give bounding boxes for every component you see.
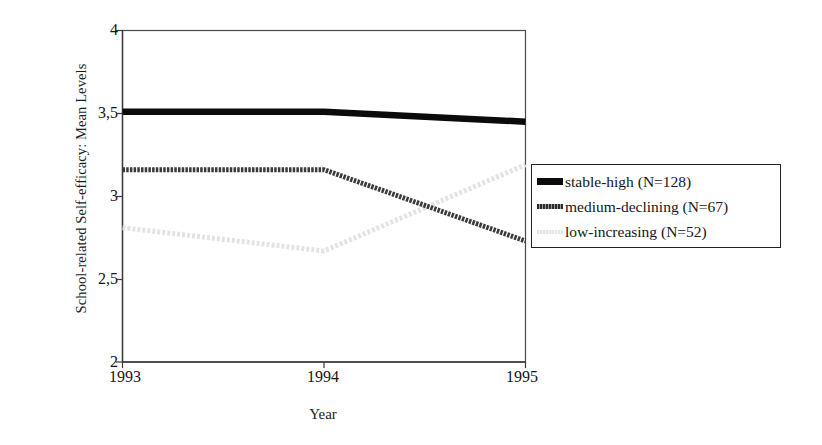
legend: stable-high (N=128) medium-declining (N=… [531, 164, 781, 248]
legend-label-medium-declining: medium-declining (N=67) [565, 199, 728, 215]
series-low-increasing [123, 165, 526, 251]
series-stable-high [123, 112, 526, 122]
legend-item-stable-high[interactable]: stable-high (N=128) [532, 169, 780, 194]
legend-item-low-increasing[interactable]: low-increasing (N=52) [532, 219, 780, 244]
x-axis-ticks [123, 362, 526, 368]
series-medium-declining [123, 170, 526, 241]
axis-frame [123, 31, 526, 363]
legend-label-low-increasing: low-increasing (N=52) [565, 224, 707, 240]
line-chart-figure: School-related Self-efficacy: Mean Level… [0, 0, 822, 445]
legend-label-stable-high: stable-high (N=128) [565, 174, 691, 190]
legend-item-medium-declining[interactable]: medium-declining (N=67) [532, 194, 780, 219]
line-swatch-low-increasing-icon [537, 226, 563, 238]
plot-border [123, 31, 526, 363]
line-swatch-medium-declining-icon [537, 201, 563, 213]
line-swatch-stable-high-icon [537, 176, 563, 188]
y-axis-ticks [116, 31, 123, 363]
